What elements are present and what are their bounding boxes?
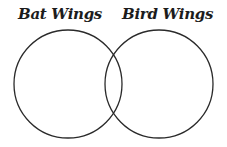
circle-bat-wings	[14, 30, 122, 138]
circle-bird-wings	[105, 30, 213, 138]
venn-diagram	[0, 0, 227, 147]
